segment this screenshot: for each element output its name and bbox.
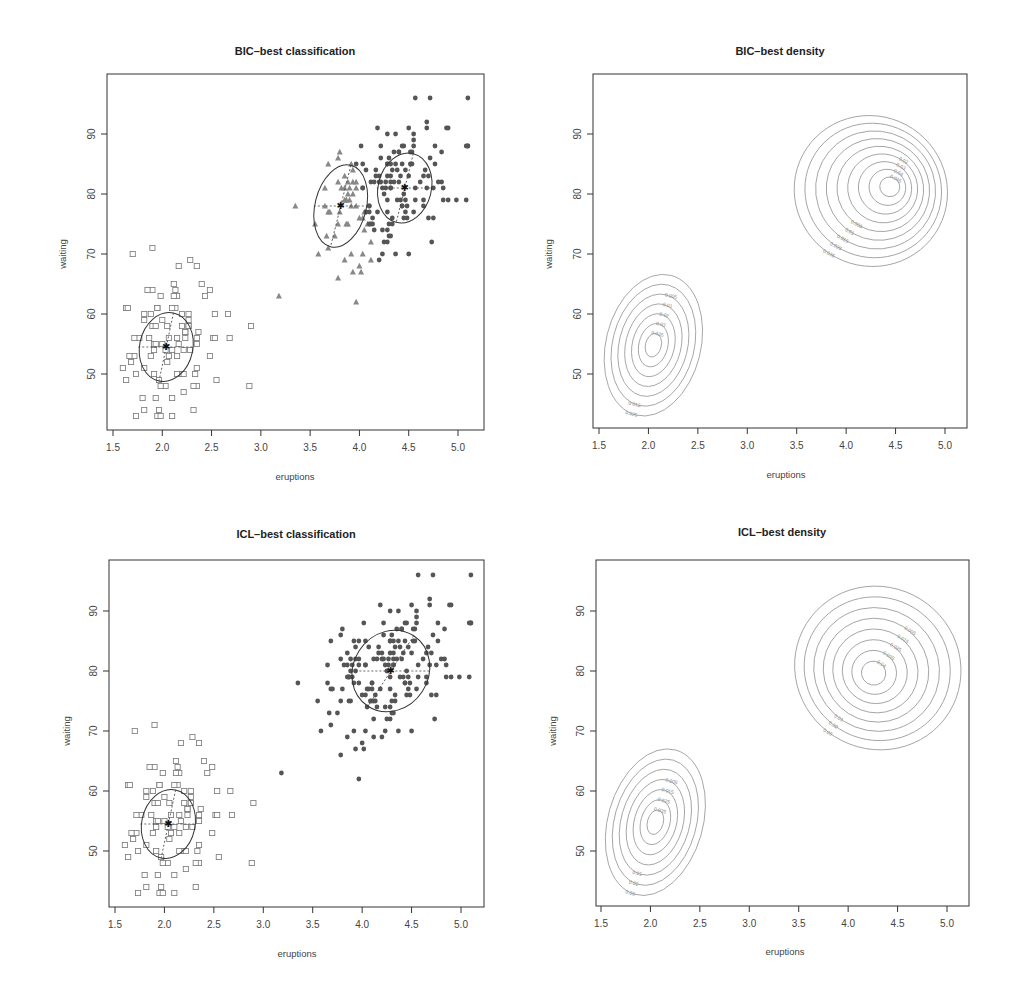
point-circle [378, 144, 383, 149]
point-square [181, 389, 186, 394]
contour-line [764, 555, 992, 781]
point-circle [372, 228, 377, 233]
x-tick-label: 2.0 [155, 442, 169, 453]
point-circle [414, 609, 419, 614]
point-circle [325, 681, 330, 686]
point-circle [441, 198, 446, 203]
point-square [144, 884, 149, 889]
point-triangle [350, 269, 356, 275]
point-triangle [368, 257, 374, 263]
point-square [155, 872, 160, 877]
point-circle [338, 699, 343, 704]
contour-line [589, 737, 722, 907]
point-square [147, 335, 152, 340]
point-circle [411, 210, 416, 215]
point-square [132, 353, 137, 358]
point-triangle [332, 233, 338, 239]
point-circle [382, 192, 387, 197]
point-square [194, 341, 199, 346]
point-circle [421, 657, 426, 662]
x-axis: 1.52.02.53.03.54.04.55.0 [108, 907, 468, 930]
point-square [166, 353, 171, 358]
point-circle [424, 126, 429, 131]
point-circle [393, 132, 398, 137]
point-circle [414, 615, 419, 620]
point-circle [367, 210, 372, 215]
point-triangle [315, 251, 321, 257]
point-circle [345, 735, 350, 740]
point-circle [340, 627, 345, 632]
point-circle [405, 204, 410, 209]
contour-label: 0.02 [659, 310, 670, 318]
point-circle [385, 198, 390, 203]
point-square [216, 854, 221, 859]
point-square [158, 293, 163, 298]
point-circle [388, 687, 393, 692]
contour-line [804, 598, 949, 742]
point-circle [446, 198, 451, 203]
point-circle [441, 186, 446, 191]
point-circle [414, 687, 419, 692]
x-tick-label: 1.5 [594, 918, 608, 929]
point-circle [328, 723, 333, 728]
contour-line [616, 298, 690, 393]
point-circle [433, 144, 438, 149]
point-circle [381, 621, 386, 626]
point-square [207, 353, 212, 358]
point-circle [427, 603, 432, 608]
panel-title: BIC–best classification [235, 45, 356, 57]
x-tick-label: 3.0 [742, 918, 756, 929]
point-circle [428, 156, 433, 161]
point-triangle [335, 179, 341, 185]
point-square [194, 263, 199, 268]
point-circle [393, 699, 398, 704]
point-square [152, 722, 157, 727]
contour-line [768, 89, 975, 294]
point-triangle [360, 251, 366, 257]
point-circle [400, 162, 405, 167]
point-square [150, 287, 155, 292]
point-circle [380, 252, 385, 257]
point-circle [376, 645, 381, 650]
y-tick-label: 50 [88, 845, 99, 857]
point-square [173, 770, 178, 775]
point-square [163, 383, 168, 388]
point-circle [376, 651, 381, 656]
point-circle [411, 132, 416, 137]
point-square [132, 728, 137, 733]
point-triangle [358, 269, 364, 275]
contour-line [626, 784, 685, 860]
point-circle [396, 639, 401, 644]
point-square [152, 764, 157, 769]
contour-label: 0.03 [822, 727, 834, 737]
point-square [159, 884, 164, 889]
point-circle [413, 96, 418, 101]
point-circle [373, 693, 378, 698]
plot-area: 1.52.02.53.03.54.04.55.050607080900.030.… [575, 555, 992, 929]
point-square [151, 347, 156, 352]
x-tick-label: 4.0 [839, 440, 853, 451]
point-square [142, 311, 147, 316]
point-square [168, 812, 173, 817]
contour-line [590, 264, 717, 427]
point-circle [404, 621, 409, 626]
point-square [248, 323, 253, 328]
point-circle [394, 657, 399, 662]
point-square [158, 413, 163, 418]
point-circle [444, 663, 449, 668]
point-square [165, 359, 170, 364]
point-square [196, 740, 201, 745]
point-circle [335, 711, 340, 716]
point-circle [377, 258, 382, 263]
point-triangle [356, 263, 362, 269]
point-square [175, 764, 180, 769]
point-circle [457, 675, 462, 680]
y-tick-label: 60 [575, 785, 586, 797]
point-circle [423, 168, 428, 173]
contour-label: 0.03 [655, 320, 666, 328]
contour-label: 0.015 [661, 786, 675, 795]
plot-area: 1.52.02.53.03.54.04.55.050607080900.0350… [572, 74, 974, 451]
point-circle [372, 180, 377, 185]
point-circle [406, 252, 411, 257]
x-tick-label: 2.5 [205, 442, 219, 453]
